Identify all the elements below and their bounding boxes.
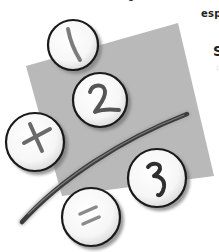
text-fragment-s: S [213,43,219,59]
text-fragment-esp: esp [201,8,219,19]
math-buttons-illustration [0,0,219,252]
button-equals [62,188,124,250]
text-fragment-colon: : [216,64,218,72]
